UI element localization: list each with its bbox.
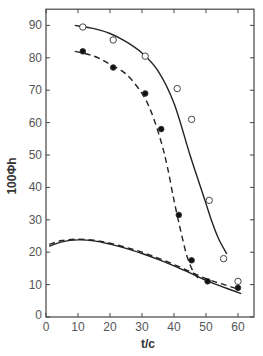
x-axis-label: t/c	[141, 337, 155, 351]
filled-circle-marker	[189, 258, 195, 264]
y-tick-label: 30	[29, 213, 43, 227]
x-tick-label: 10	[71, 320, 85, 334]
open-circle-marker	[220, 255, 226, 261]
plot-frame	[46, 9, 254, 317]
open-circle-marker	[235, 278, 241, 284]
chart: 01020304050600102030405060708090 t/c 100…	[0, 0, 263, 356]
open-circle-marker	[188, 116, 194, 122]
y-tick-label: 70	[29, 83, 43, 97]
open-circle-marker	[174, 85, 180, 91]
open-circle-marker	[80, 24, 86, 30]
solid-curve	[49, 240, 241, 294]
y-tick-label: 10	[29, 278, 43, 292]
y-axis-label: 100Φh	[5, 157, 19, 194]
open-circle-marker	[110, 37, 116, 43]
y-tick-label: 90	[29, 18, 43, 32]
y-tick-label: 50	[29, 148, 43, 162]
filled-circle-marker	[110, 65, 116, 71]
x-tick-label: 20	[103, 320, 117, 334]
x-tick-label: 50	[199, 320, 213, 334]
open-circle-marker	[142, 53, 148, 59]
y-tick-label: 0	[35, 308, 42, 322]
data-markers	[80, 24, 242, 291]
open-circle-marker	[206, 197, 212, 203]
x-tick-label: 0	[43, 320, 50, 334]
filled-circle-marker	[235, 285, 241, 291]
x-tick-label: 30	[135, 320, 149, 334]
y-tick-label: 60	[29, 116, 43, 130]
y-tick-label: 80	[29, 51, 43, 65]
solid-curve	[75, 25, 227, 253]
filled-circle-marker	[205, 279, 211, 285]
curves	[49, 25, 241, 293]
y-tick-label: 40	[29, 180, 43, 194]
x-tick-label: 60	[231, 320, 245, 334]
filled-circle-marker	[158, 126, 164, 132]
plot-border	[46, 9, 254, 317]
filled-circle-marker	[142, 91, 148, 97]
filled-circle-marker	[80, 49, 86, 55]
y-tick-label: 20	[29, 245, 43, 259]
filled-circle-marker	[176, 212, 182, 218]
dashed-curve	[75, 51, 198, 278]
x-tick-label: 40	[167, 320, 181, 334]
